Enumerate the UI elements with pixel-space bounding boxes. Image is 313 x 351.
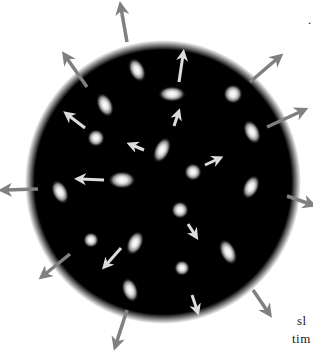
expanding-universe-illustration xyxy=(0,0,313,351)
arrow-icon xyxy=(121,8,127,42)
galaxy-icon xyxy=(158,86,186,102)
galaxy-icon xyxy=(223,84,243,104)
galaxy-icon xyxy=(83,232,99,248)
arrow-icon xyxy=(5,189,38,190)
arrow-icon xyxy=(250,58,278,82)
text-fragment-line-1: sl xyxy=(297,313,307,329)
galaxy-icon xyxy=(108,171,136,189)
galaxy-icon xyxy=(171,201,189,219)
galaxy-icon xyxy=(87,129,105,147)
galaxy-icon xyxy=(174,260,190,276)
arrow-icon xyxy=(80,179,104,180)
arrow-icon xyxy=(253,290,268,312)
text-fragment-line-2: tim xyxy=(292,331,311,347)
text-mark: . xyxy=(308,12,312,28)
galaxy-icon xyxy=(184,163,202,181)
